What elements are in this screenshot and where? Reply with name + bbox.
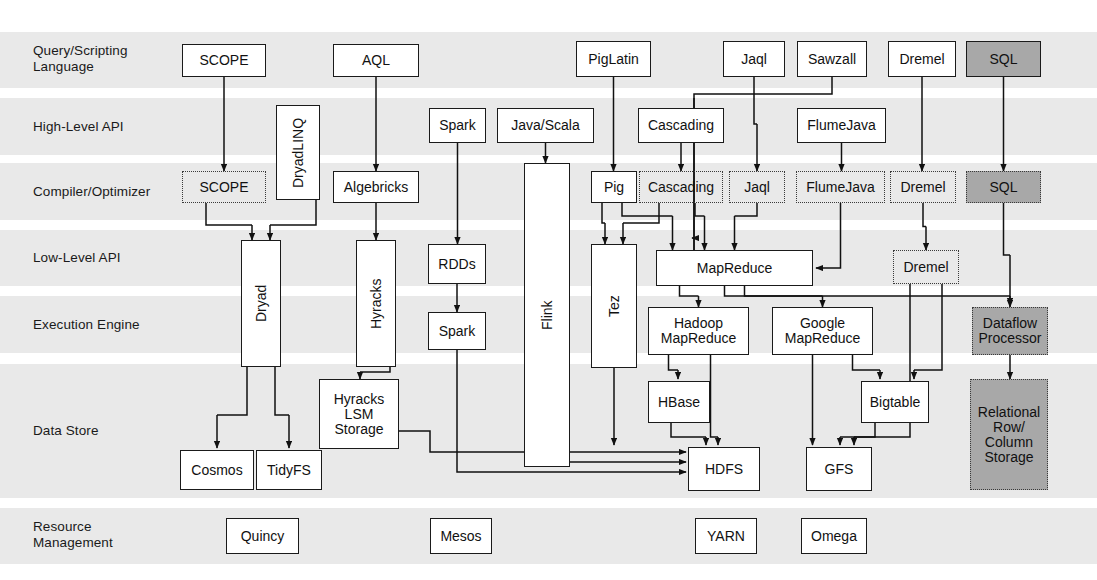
node-label-omega: Omega (811, 529, 857, 544)
row-label-compiler: Compiler/Optimizer (33, 184, 150, 200)
node-dryadlinq[interactable]: DryadLINQ (276, 105, 320, 200)
node-label-scope-comp: SCOPE (199, 180, 248, 195)
node-javascala[interactable]: Java/Scala (497, 108, 594, 143)
node-label-hbase: HBase (658, 395, 700, 410)
node-label-dryad: Dryad (254, 285, 269, 322)
node-cosmos[interactable]: Cosmos (180, 450, 254, 490)
node-label-jaql-comp: Jaql (744, 180, 770, 195)
node-label-javascala: Java/Scala (511, 118, 579, 133)
node-label-flumejava-comp: FlumeJava (806, 180, 874, 195)
node-sawzall[interactable]: Sawzall (797, 41, 867, 77)
node-gfs[interactable]: GFS (806, 447, 872, 491)
node-flumejava-api[interactable]: FlumeJava (797, 108, 886, 143)
node-label-bigtable: Bigtable (870, 395, 921, 410)
row-label-datastore: Data Store (33, 423, 99, 439)
node-label-quincy: Quincy (241, 529, 285, 544)
node-label-hadoop-mr: Hadoop MapReduce (661, 316, 737, 346)
node-sql-comp[interactable]: SQL (966, 171, 1041, 203)
node-dremel-lang[interactable]: Dremel (888, 41, 956, 77)
node-label-sawzall: Sawzall (808, 52, 856, 67)
node-label-aql: AQL (362, 53, 390, 68)
node-pig-comp[interactable]: Pig (591, 171, 637, 203)
node-label-dremel-comp: Dremel (900, 180, 945, 195)
node-label-dremel-low: Dremel (903, 260, 948, 275)
node-yarn[interactable]: YARN (695, 518, 757, 554)
node-label-cosmos: Cosmos (191, 463, 242, 478)
node-hyracks[interactable]: Hyracks (356, 240, 396, 367)
node-hdfs[interactable]: HDFS (688, 447, 760, 491)
node-algebricks[interactable]: Algebricks (333, 171, 419, 203)
node-tez[interactable]: Tez (591, 244, 637, 368)
node-label-dryadlinq: DryadLINQ (291, 117, 306, 187)
node-spark-exec[interactable]: Spark (428, 312, 486, 350)
node-mesos[interactable]: Mesos (430, 518, 492, 554)
node-label-pig-comp: Pig (604, 180, 624, 195)
node-flink[interactable]: Flink (524, 163, 570, 467)
node-sql-lang[interactable]: SQL (966, 41, 1041, 77)
node-label-piglatin: PigLatin (588, 52, 639, 67)
node-cascading-comp[interactable]: Cascading (639, 171, 723, 203)
node-hadoop-mr[interactable]: Hadoop MapReduce (648, 307, 749, 355)
row-label-lowapi: Low-Level API (33, 250, 121, 266)
node-label-dataflow-proc: Dataflow Processor (978, 316, 1041, 346)
node-hyracks-lsm[interactable]: Hyracks LSM Storage (319, 379, 399, 449)
row-label-resource: Resource Management (33, 519, 113, 551)
node-label-relational: Relational Row/ Column Storage (978, 405, 1040, 465)
architecture-diagram: Query/Scripting LanguageHigh-Level APICo… (0, 0, 1097, 580)
node-label-yarn: YARN (707, 529, 745, 544)
node-jaql-comp[interactable]: Jaql (729, 171, 785, 203)
row-label-query: Query/Scripting Language (33, 43, 128, 75)
node-label-hyracks-lsm: Hyracks LSM Storage (334, 392, 385, 437)
node-label-mesos: Mesos (440, 529, 481, 544)
node-label-algebricks: Algebricks (344, 180, 409, 195)
node-label-spark-api: Spark (439, 118, 476, 133)
node-omega[interactable]: Omega (801, 518, 867, 554)
node-dryad[interactable]: Dryad (241, 240, 281, 367)
node-label-scope-lang: SCOPE (199, 53, 248, 68)
node-label-cascading-comp: Cascading (648, 180, 714, 195)
node-label-flumejava-api: FlumeJava (807, 118, 875, 133)
node-label-tez: Tez (607, 295, 622, 317)
node-hbase[interactable]: HBase (648, 381, 710, 423)
node-label-jaql-lang: Jaql (741, 52, 767, 67)
node-cascading-api[interactable]: Cascading (638, 108, 724, 143)
row-label-execution: Execution Engine (33, 317, 140, 333)
node-label-spark-exec: Spark (439, 324, 476, 339)
node-piglatin[interactable]: PigLatin (576, 41, 651, 77)
node-label-hyracks: Hyracks (369, 278, 384, 329)
node-rdds[interactable]: RDDs (428, 244, 486, 284)
node-mapreduce[interactable]: MapReduce (656, 250, 813, 286)
node-label-sql-lang: SQL (989, 52, 1017, 67)
node-google-mr[interactable]: Google MapReduce (772, 307, 873, 355)
node-flumejava-comp[interactable]: FlumeJava (796, 171, 885, 203)
node-label-mapreduce: MapReduce (697, 261, 773, 276)
node-spark-api[interactable]: Spark (429, 108, 486, 143)
node-aql[interactable]: AQL (333, 44, 419, 77)
node-label-sql-comp: SQL (989, 180, 1017, 195)
node-label-rdds: RDDs (438, 257, 475, 272)
node-label-flink: Flink (540, 300, 555, 330)
node-jaql-lang[interactable]: Jaql (723, 41, 785, 77)
node-dremel-low[interactable]: Dremel (893, 250, 959, 284)
node-scope-comp[interactable]: SCOPE (182, 171, 266, 203)
node-label-cascading-api: Cascading (648, 118, 714, 133)
node-label-google-mr: Google MapReduce (785, 316, 861, 346)
row-label-highapi: High-Level API (33, 119, 124, 135)
node-label-dremel-lang: Dremel (899, 52, 944, 67)
node-tidyfs[interactable]: TidyFS (256, 450, 322, 490)
node-relational[interactable]: Relational Row/ Column Storage (970, 379, 1048, 490)
node-label-tidyfs: TidyFS (267, 463, 311, 478)
node-scope-lang[interactable]: SCOPE (182, 44, 266, 77)
node-label-hdfs: HDFS (705, 462, 743, 477)
node-label-gfs: GFS (825, 462, 854, 477)
node-bigtable[interactable]: Bigtable (861, 381, 929, 423)
node-dremel-comp[interactable]: Dremel (890, 171, 956, 203)
node-quincy[interactable]: Quincy (226, 518, 299, 554)
node-dataflow-proc[interactable]: Dataflow Processor (972, 307, 1048, 355)
band-resource (0, 508, 1097, 564)
